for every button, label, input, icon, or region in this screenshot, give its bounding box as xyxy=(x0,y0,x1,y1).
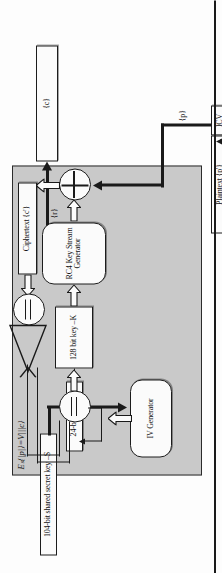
ciphertext-cprime-label: Ciphertext {c'} xyxy=(23,205,31,250)
iv-generator-label: IV Generator xyxy=(147,398,155,438)
plaintext-arrowhead xyxy=(93,180,102,190)
funnel-rail-tap-iv xyxy=(69,421,70,463)
output-concat-bar-bottom xyxy=(30,299,31,319)
plaintext-box: Plaintext {p'} xyxy=(211,135,222,233)
panel-label: Eₛ{|p|}=V|||c} xyxy=(16,420,26,469)
concat-to-key-arrow xyxy=(67,369,81,391)
rc4-line2: Generator xyxy=(74,238,82,268)
ciphertext-output-arrowhead xyxy=(42,161,52,170)
key-128-box: 128 bit key –K xyxy=(55,306,93,368)
rc4-generator-box: RC4 Key Stream Generator xyxy=(42,222,106,284)
wep-encryption-diagram: Eₛ{|p|}=V|||c} 104-bit shared secret key… xyxy=(0,0,222,573)
key-128-label: 128 bit key –K xyxy=(70,315,78,360)
page-rule xyxy=(214,0,216,573)
xor-operator xyxy=(59,168,91,200)
funnel-rail-upper-v xyxy=(28,454,60,455)
funnel-rail-tap-iv2 xyxy=(59,420,60,456)
plaintext-wire-up xyxy=(100,183,164,186)
ciphertext-cprime-box: Ciphertext {c'} xyxy=(18,182,37,274)
rc4-to-xor-arrow xyxy=(67,199,81,221)
secret-key-arrowhead xyxy=(118,402,127,412)
plaintext-wire-right xyxy=(161,123,164,187)
output-concat-operator xyxy=(13,293,45,325)
iv-generator-to-iv-arrow xyxy=(108,411,132,425)
secret-key-wire xyxy=(48,407,51,435)
iv-key-concat-operator xyxy=(59,390,91,422)
keystream-label: {r} xyxy=(50,208,59,218)
plaintext-p-label: {p} xyxy=(178,109,187,121)
iv-feedback-up xyxy=(84,440,102,441)
plaintext-label: Plaintext {p'} xyxy=(216,164,222,205)
icv-box: ICV xyxy=(211,105,222,135)
secret-key-label: 104-bit shared secret key –S xyxy=(44,451,52,536)
iv-feedback-down xyxy=(88,407,102,408)
iv-generator-box: IV Generator xyxy=(130,379,172,457)
xor-to-ciphertext-arrow xyxy=(36,178,60,192)
concat-bar-bottom xyxy=(76,397,77,416)
mux-feedback-arrowhead xyxy=(216,138,222,144)
xor-vbar xyxy=(62,184,89,185)
iv-feedback-arrowhead xyxy=(79,439,85,445)
concat-bar-top xyxy=(71,397,72,416)
output-concat-bar-top xyxy=(25,299,26,319)
icv-label: ICV xyxy=(216,113,222,126)
funnel-rail-upper-h xyxy=(27,364,28,456)
funnel-rail-lower-v xyxy=(38,461,70,462)
secret-key-box: 104-bit shared secret key –S xyxy=(40,433,57,555)
key-to-rc4-arrow xyxy=(67,284,81,306)
ciphertext-output-label: {c} xyxy=(43,98,51,109)
ciphertext-output-box: {c} xyxy=(36,45,58,161)
plaintext-wire-down xyxy=(161,123,211,126)
funnel-rail-lower-h xyxy=(37,367,38,463)
iv-feedback-left xyxy=(101,407,102,441)
